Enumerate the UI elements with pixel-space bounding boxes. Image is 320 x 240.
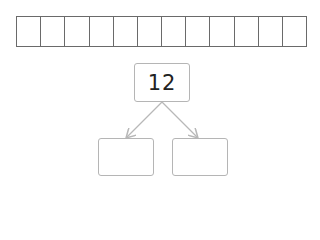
part-box-right[interactable]	[172, 138, 228, 176]
part-box-left[interactable]	[98, 138, 154, 176]
whole-box: 12	[134, 63, 190, 102]
left-arrow	[127, 102, 162, 137]
right-arrow	[162, 102, 197, 137]
whole-value: 12	[148, 71, 177, 95]
